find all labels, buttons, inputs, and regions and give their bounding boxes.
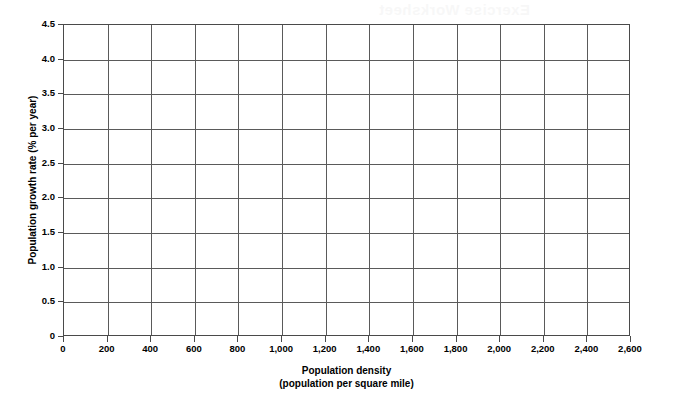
y-axis-tick-label: 0 [15,331,55,341]
plot-area [63,24,630,336]
empty-grid-chart: Population growth rate (% per year) Popu… [0,0,676,403]
gridline-vertical [108,25,109,335]
gridline-vertical [151,25,152,335]
gridline-vertical [238,25,239,335]
y-axis-tick [58,24,63,25]
gridline-vertical [544,25,545,335]
x-axis-tick [586,336,587,342]
x-axis-tick [237,336,238,342]
x-axis-tick [150,336,151,342]
x-axis-tick-label: 2,600 [600,344,660,354]
y-axis-tick [58,232,63,233]
x-axis-tick [543,336,544,342]
gridline-vertical [413,25,414,335]
x-axis-tick [281,336,282,342]
y-axis-tick-label: 3.0 [15,123,55,133]
y-axis-tick [58,93,63,94]
gridline-vertical [195,25,196,335]
y-axis-tick-label: 2.5 [15,158,55,168]
gridline-vertical [369,25,370,335]
y-axis-tick-label: 1.0 [15,262,55,272]
gridline-vertical [587,25,588,335]
y-axis-tick [58,301,63,302]
y-axis-tick-label: 4.5 [15,19,55,29]
x-axis-tick [630,336,631,342]
gridline-vertical [282,25,283,335]
x-axis-title-line1: Population density [302,365,391,376]
gridline-vertical [326,25,327,335]
y-axis-tick [58,163,63,164]
y-axis-title: Population growth rate (% per year) [26,24,40,336]
x-axis-tick [325,336,326,342]
gridline-vertical [457,25,458,335]
x-axis-tick [368,336,369,342]
x-axis-title-line2: (population per square mile) [63,377,630,390]
x-axis-tick [107,336,108,342]
y-axis-tick-label: 1.5 [15,227,55,237]
y-axis-tick [58,197,63,198]
x-axis-tick [456,336,457,342]
x-axis-tick [499,336,500,342]
gridline-vertical [500,25,501,335]
x-axis-title: Population density (population per squar… [63,364,630,390]
x-axis-tick [412,336,413,342]
y-axis-tick-label: 4.0 [15,54,55,64]
y-axis-tick [58,128,63,129]
y-axis-tick [58,59,63,60]
y-axis-tick [58,267,63,268]
y-axis-tick-label: 3.5 [15,88,55,98]
x-axis-tick [63,336,64,342]
x-axis-tick [194,336,195,342]
y-axis-tick-label: 0.5 [15,296,55,306]
y-axis-tick-label: 2.0 [15,192,55,202]
